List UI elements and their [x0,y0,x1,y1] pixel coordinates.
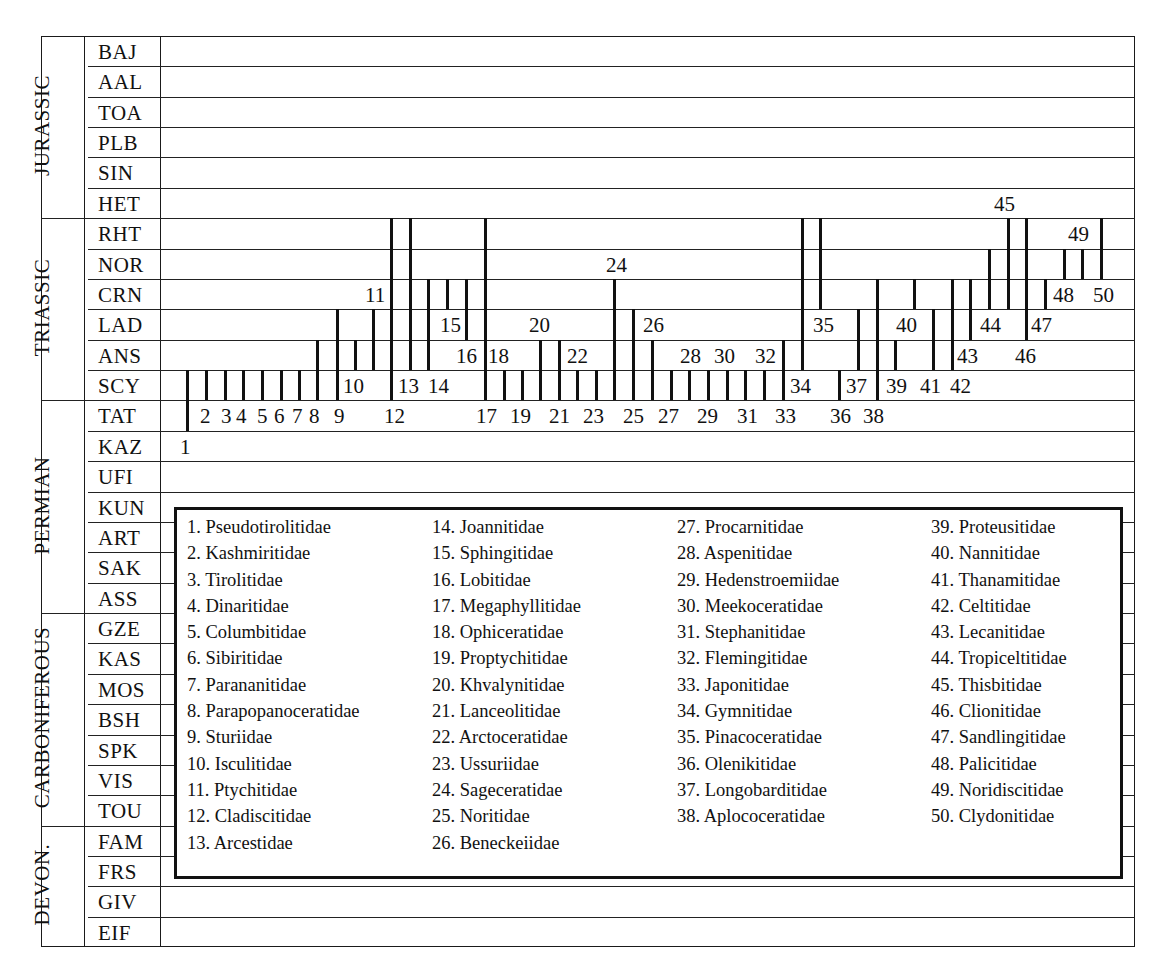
period-column-divider [84,36,85,947]
range-bar-23 [595,370,598,400]
stage-divider [88,309,1135,310]
range-bar-label-19: 19 [510,404,531,428]
stage-divider [88,917,1135,918]
legend-item: 44. Tropiceltitidae [931,645,1067,671]
legend-column-3: 27. Procarnitidae28. Aspenitidae29. Hede… [677,514,839,830]
stage-label: BSH [98,705,158,735]
range-bar-48 [1063,249,1066,279]
stage-label: HET [98,189,158,219]
range-bar-label-42: 42 [950,374,971,398]
stage-label: KAZ [98,432,158,462]
range-bar-label-37: 37 [846,374,867,398]
range-bar-49 [1081,249,1084,279]
range-bar-label-1: 1 [180,435,191,459]
stage-divider [88,66,1135,67]
stage-label: ASS [98,584,158,614]
stage-divider [88,431,1135,432]
range-bar-label-9: 9 [334,404,345,428]
range-bar-14 [427,279,430,370]
legend-item: 9. Sturiidae [187,724,360,750]
range-bar-label-30: 30 [714,344,735,368]
legend-item: 33. Japonitidae [677,672,839,698]
legend-item: 38. Aplococeratidae [677,803,839,829]
range-bar-label-4: 4 [236,404,247,428]
range-bar-label-7: 7 [292,404,303,428]
legend-item: 27. Procarnitidae [677,514,839,540]
stage-label: ANS [98,341,158,371]
range-bar-label-26: 26 [643,313,664,337]
legend-item: 25. Noritidae [432,803,581,829]
legend-item: 39. Proteusitidae [931,514,1067,540]
stage-label: SCY [98,371,158,401]
range-bar-label-3: 3 [221,404,232,428]
stage-divider [88,492,1135,493]
legend-item: 6. Sibiritidae [187,645,360,671]
range-bar-label-27: 27 [658,404,679,428]
range-bar-37 [857,309,860,370]
range-bar-9 [336,309,339,400]
range-bar-label-33: 33 [775,404,796,428]
range-bar-44 [988,249,991,310]
stage-label: GIV [98,887,158,917]
stage-label: KUN [98,493,158,523]
legend-item: 30. Meekoceratidae [677,593,839,619]
range-bar-label-46: 46 [1015,344,1036,368]
legend-box: 1. Pseudotirolitidae2. Kashmiritidae3. T… [174,507,1123,879]
legend-item: 17. Megaphyllitidae [432,593,581,619]
legend-item: 5. Columbitidae [187,619,360,645]
legend-item: 10. Isculitidae [187,751,360,777]
legend-item: 8. Parapopanoceratidae [187,698,360,724]
legend-item: 4. Dinaritidae [187,593,360,619]
range-bar-label-25: 25 [623,404,644,428]
legend-item: 47. Sandlingitidae [931,724,1067,750]
stage-label: UFI [98,462,158,492]
range-bar-22 [576,370,579,400]
stage-label: RHT [98,219,158,249]
range-bar-30 [726,370,729,400]
range-bar-label-32: 32 [755,344,776,368]
stage-divider [88,97,1135,98]
range-bar-32 [763,370,766,400]
legend-item: 22. Arctoceratidae [432,724,581,750]
range-bar-3 [224,370,227,400]
range-bar-19 [521,370,524,400]
legend-item: 48. Palicitidae [931,751,1067,777]
range-bar-10 [354,340,357,370]
legend-item: 3. Tirolitidae [187,567,360,593]
range-bar-41 [932,309,935,370]
range-bar-label-43: 43 [957,344,978,368]
legend-item: 2. Kashmiritidae [187,540,360,566]
stage-label: KAS [98,644,158,674]
range-bar-13 [409,218,412,370]
range-bar-20 [539,340,542,401]
stage-divider [88,249,1135,250]
legend-item: 20. Khvalynitidae [432,672,581,698]
range-bar-25 [632,309,635,400]
range-bar-label-45: 45 [994,192,1015,216]
range-bar-42 [951,279,954,370]
stage-label: TAT [98,401,158,431]
range-bar-47 [1044,279,1047,309]
stage-divider [41,400,1135,401]
legend-item: 1. Pseudotirolitidae [187,514,360,540]
range-bar-label-41: 41 [920,374,941,398]
legend-item: 13. Arcestidae [187,830,360,856]
range-bar-label-23: 23 [583,404,604,428]
stage-label: LAD [98,310,158,340]
range-bar-label-13: 13 [398,374,419,398]
legend-item: 28. Aspenitidae [677,540,839,566]
stage-divider [88,461,1135,462]
range-bar-45 [1007,218,1010,309]
legend-column-2: 14. Joannitidae15. Sphingitidae16. Lobit… [432,514,581,856]
legend-item: 14. Joannitidae [432,514,581,540]
range-bar-label-47: 47 [1031,313,1052,337]
range-bar-label-5: 5 [257,404,268,428]
legend-item: 34. Gymnitidae [677,698,839,724]
stage-divider [88,127,1135,128]
legend-item: 15. Sphingitidae [432,540,581,566]
range-bar-7 [298,370,301,400]
stage-label: MOS [98,675,158,705]
legend-item: 35. Pinacoceratidae [677,724,839,750]
range-bar-label-18: 18 [488,344,509,368]
range-bar-33 [782,340,785,401]
